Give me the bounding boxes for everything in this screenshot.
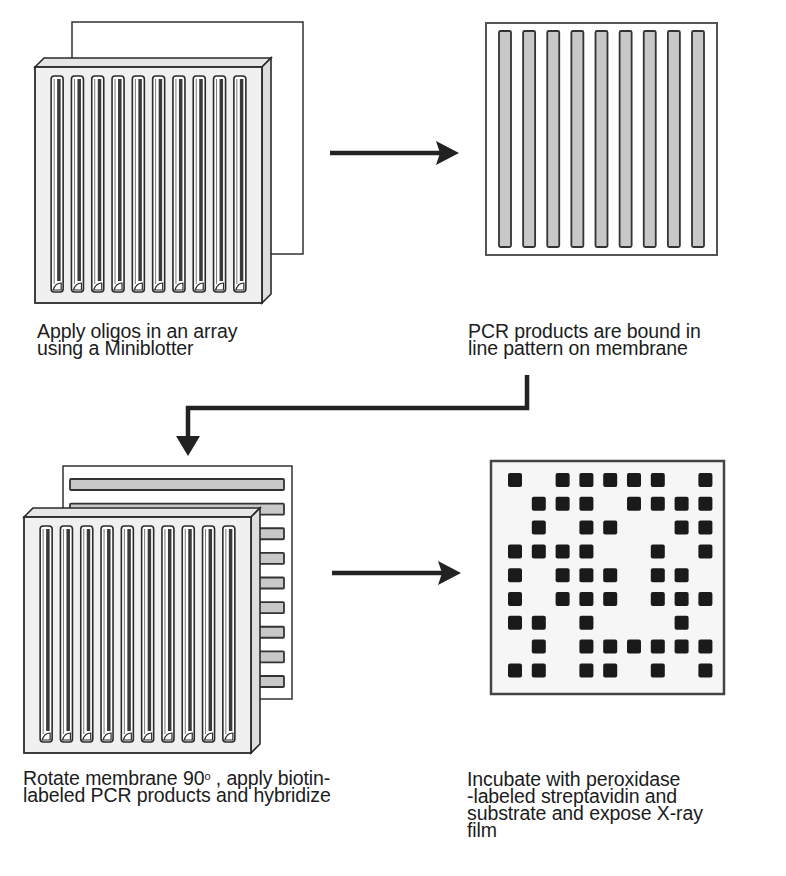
hybridization-dot bbox=[532, 640, 546, 654]
caption-line: film bbox=[467, 822, 703, 839]
hybridization-dot bbox=[627, 497, 641, 511]
arrow-step2-to-step3 bbox=[176, 375, 527, 456]
hybridization-dot bbox=[698, 663, 712, 677]
hybridization-dot bbox=[579, 521, 593, 535]
hybridization-dot bbox=[651, 568, 665, 582]
hybridization-dot bbox=[651, 544, 665, 558]
step-4-dot-blot-illustration bbox=[491, 461, 724, 694]
blotter-slot bbox=[121, 526, 133, 742]
blotter-slot bbox=[51, 76, 63, 292]
hybridization-dot bbox=[556, 592, 570, 606]
hybridization-dot bbox=[579, 544, 593, 558]
pcr-line bbox=[668, 31, 680, 247]
blotter-slot bbox=[182, 526, 194, 742]
arrow-step1-to-step2 bbox=[330, 141, 459, 165]
caption-line: using a Miniblotter bbox=[37, 340, 237, 357]
blotter-slot bbox=[112, 76, 124, 292]
step-2-caption: PCR products are bound in line pattern o… bbox=[468, 323, 701, 357]
hybridization-dot bbox=[651, 640, 665, 654]
blotter-slot bbox=[153, 76, 165, 292]
hybridization-dot bbox=[698, 592, 712, 606]
blotter-side-bevel bbox=[251, 508, 260, 753]
pcr-line bbox=[620, 31, 632, 247]
blotter-slot bbox=[173, 76, 185, 292]
hybridization-dot bbox=[603, 640, 617, 654]
hybridization-dot bbox=[532, 616, 546, 630]
hybridization-dot bbox=[532, 521, 546, 535]
hybridization-dot bbox=[651, 473, 665, 487]
hybridization-dot bbox=[508, 663, 522, 677]
miniblotter-block bbox=[24, 508, 260, 753]
hybridization-dot bbox=[532, 544, 546, 558]
hybridization-dot bbox=[698, 544, 712, 558]
pcr-line bbox=[692, 31, 704, 247]
degree-symbol: o bbox=[204, 770, 210, 782]
blotter-slot bbox=[132, 76, 144, 292]
blotter-slot bbox=[40, 526, 52, 742]
hybridization-dot bbox=[603, 663, 617, 677]
hybridization-dot bbox=[698, 521, 712, 535]
blotter-slot bbox=[81, 526, 93, 742]
hybridization-dot bbox=[556, 473, 570, 487]
hybridization-dot bbox=[603, 592, 617, 606]
blotter-side-bevel bbox=[262, 58, 271, 303]
hybridization-dot bbox=[675, 497, 689, 511]
blotter-face bbox=[24, 517, 251, 753]
step-1-miniblotter-illustration bbox=[35, 22, 303, 303]
hybridization-dot bbox=[603, 568, 617, 582]
hybridization-dot bbox=[579, 473, 593, 487]
step-2-membrane-illustration bbox=[486, 23, 717, 255]
hybridization-dot bbox=[627, 473, 641, 487]
blotter-face bbox=[35, 67, 262, 303]
hybridization-dot bbox=[508, 544, 522, 558]
blotter-slot bbox=[71, 76, 83, 292]
blotter-slot bbox=[223, 526, 235, 742]
hybridization-dot bbox=[698, 497, 712, 511]
blotter-top-bevel bbox=[24, 508, 260, 517]
step-4-caption: Incubate with peroxidase -labeled strept… bbox=[467, 771, 703, 839]
arrow-step3-to-step4 bbox=[332, 561, 461, 585]
hybridization-dot bbox=[579, 592, 593, 606]
hybridization-dot bbox=[508, 592, 522, 606]
pcr-line bbox=[499, 31, 511, 247]
blotter-slot bbox=[234, 76, 246, 292]
hybridization-dot bbox=[698, 473, 712, 487]
pcr-line bbox=[644, 31, 656, 247]
caption-line: labeled PCR products and hybridize bbox=[23, 787, 331, 804]
hybridization-dot bbox=[627, 640, 641, 654]
blotter-slot bbox=[60, 526, 72, 742]
hybridization-dot bbox=[556, 497, 570, 511]
step-3-caption: Rotate membrane 90o , apply biotin- labe… bbox=[23, 770, 331, 804]
pcr-line bbox=[70, 479, 284, 490]
hybridization-dot bbox=[508, 568, 522, 582]
hybridization-dot bbox=[698, 640, 712, 654]
hybridization-dot bbox=[675, 640, 689, 654]
caption-line: substrate and expose X-ray bbox=[467, 805, 703, 822]
pcr-line bbox=[547, 31, 559, 247]
blotter-slot bbox=[101, 526, 113, 742]
pcr-line bbox=[523, 31, 535, 247]
hybridization-dot bbox=[675, 616, 689, 630]
miniblotter-block bbox=[35, 58, 271, 303]
hybridization-dot bbox=[532, 497, 546, 511]
hybridization-dot bbox=[579, 616, 593, 630]
blotter-slot bbox=[203, 526, 215, 742]
blotter-slot bbox=[92, 76, 104, 292]
blotter-slot bbox=[162, 526, 174, 742]
hybridization-dot bbox=[579, 497, 593, 511]
step-1-caption: Apply oligos in an array using a Miniblo… bbox=[37, 323, 237, 357]
blotter-top-bevel bbox=[35, 58, 271, 67]
caption-line: line pattern on membrane bbox=[468, 340, 701, 357]
hybridization-dot bbox=[579, 663, 593, 677]
blotter-slot bbox=[193, 76, 205, 292]
hybridization-dot bbox=[675, 592, 689, 606]
hybridization-dot bbox=[651, 497, 665, 511]
hybridization-dot bbox=[556, 568, 570, 582]
hybridization-dot bbox=[675, 568, 689, 582]
hybridization-dot bbox=[675, 521, 689, 535]
blotter-slot bbox=[142, 526, 154, 742]
blotter-slot bbox=[214, 76, 226, 292]
hybridization-dot bbox=[651, 592, 665, 606]
pcr-line bbox=[571, 31, 583, 247]
hybridization-dot bbox=[579, 568, 593, 582]
